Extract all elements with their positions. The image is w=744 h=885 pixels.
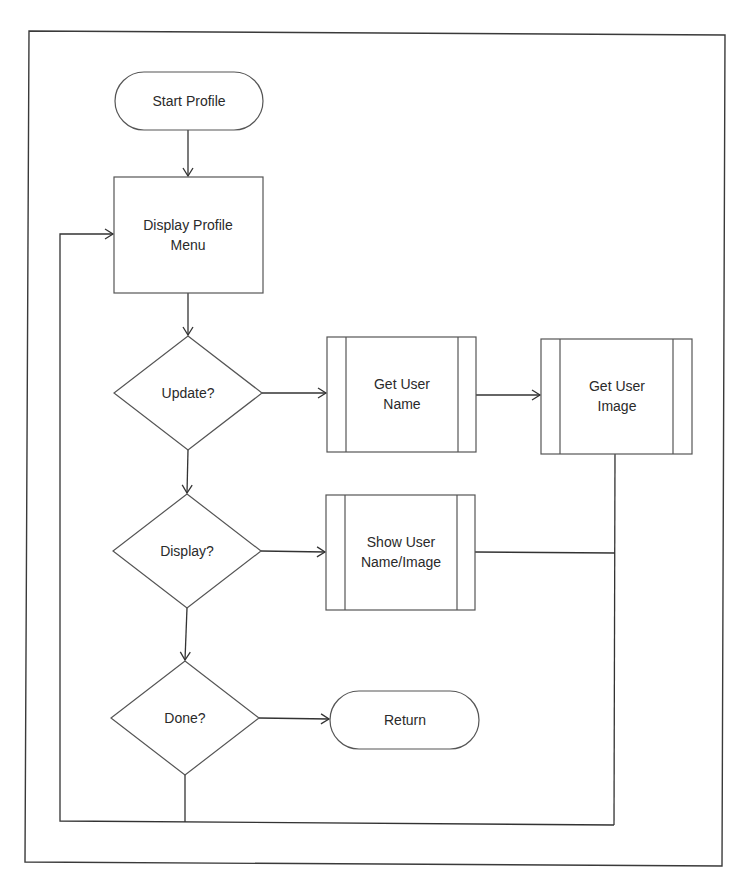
- node-get-user-name[interactable]: Get User Name: [327, 337, 476, 452]
- node-done-decision[interactable]: Done?: [111, 661, 259, 775]
- edge-display-to-done: [185, 608, 187, 660]
- node-update-label: Update?: [162, 385, 215, 401]
- node-menu-label-line1: Display Profile: [143, 217, 233, 233]
- node-show-label-line1: Show User: [367, 534, 436, 550]
- node-menu-label-line2: Menu: [170, 237, 205, 253]
- node-done-label: Done?: [164, 710, 205, 726]
- node-show-user-name-image[interactable]: Show User Name/Image: [326, 495, 475, 610]
- node-start-label: Start Profile: [152, 93, 225, 109]
- node-display-decision[interactable]: Display?: [113, 494, 261, 608]
- edge-display-to-show: [261, 551, 325, 552]
- node-get-image-label-line2: Image: [598, 398, 637, 414]
- node-get-name-label-line1: Get User: [374, 376, 430, 392]
- node-get-name-label-line2: Name: [383, 396, 421, 412]
- node-display-profile-menu[interactable]: Display Profile Menu: [114, 177, 263, 293]
- node-return-label: Return: [384, 712, 426, 728]
- edge-update-to-display: [187, 450, 188, 493]
- node-display-label: Display?: [160, 543, 214, 559]
- node-update-decision[interactable]: Update?: [114, 336, 262, 450]
- edge-done-to-return: [259, 718, 329, 719]
- flowchart-canvas: Start Profile Display Profile Menu Updat…: [0, 0, 744, 885]
- node-get-user-image[interactable]: Get User Image: [541, 339, 692, 454]
- node-get-image-label-line1: Get User: [589, 378, 645, 394]
- edge-show-to-loop: [475, 552, 615, 553]
- edge-get-image-to-loop: [614, 454, 615, 825]
- node-return[interactable]: Return: [330, 691, 479, 749]
- node-show-label-line2: Name/Image: [361, 554, 441, 570]
- node-start-profile[interactable]: Start Profile: [115, 72, 263, 130]
